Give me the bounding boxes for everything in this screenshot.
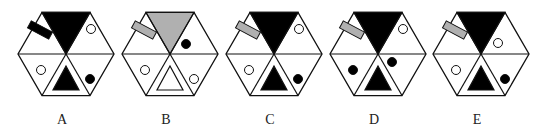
puzzle-canvas: ABCDE: [0, 0, 548, 130]
open-circle-icon: [452, 66, 461, 75]
option-e[interactable]: E: [433, 12, 529, 127]
option-label: C: [265, 112, 274, 127]
open-circle-icon: [87, 25, 96, 34]
open-circle-icon: [399, 25, 408, 34]
filled-circle-icon: [182, 40, 191, 49]
filled-circle-icon: [294, 75, 303, 84]
filled-circle-icon: [349, 66, 358, 75]
option-c[interactable]: C: [226, 12, 322, 127]
filled-circle-icon: [388, 58, 397, 67]
option-label: A: [57, 112, 68, 127]
option-label: E: [473, 112, 482, 127]
open-circle-icon: [37, 66, 46, 75]
open-circle-icon: [190, 75, 199, 84]
option-b[interactable]: B: [122, 12, 218, 127]
option-label: B: [161, 112, 170, 127]
open-circle-icon: [245, 66, 254, 75]
open-circle-icon: [494, 39, 503, 48]
option-d[interactable]: D: [330, 12, 426, 127]
filled-circle-icon: [86, 75, 95, 84]
open-circle-icon: [295, 25, 304, 34]
filled-circle-icon: [501, 75, 510, 84]
open-circle-icon: [141, 66, 150, 75]
option-a[interactable]: A: [18, 12, 114, 127]
option-label: D: [369, 112, 379, 127]
